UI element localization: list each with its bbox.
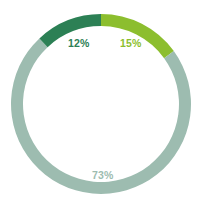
donut-slice-label-0: 15% (120, 38, 142, 49)
donut-slice-label-1: 73% (92, 170, 114, 181)
donut-chart: 15% 73% 12% (0, 0, 205, 211)
donut-slice-label-2: 12% (68, 38, 90, 49)
donut-slices (11, 14, 191, 194)
